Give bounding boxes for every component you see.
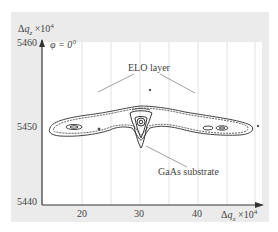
elo-layer-annotation: ELO layer	[128, 63, 170, 73]
x-axis-label: Δqx ×104	[221, 207, 257, 224]
y-tick-5440: 5440	[17, 197, 37, 207]
y-tick-5460: 5460	[17, 38, 37, 48]
y-axis	[39, 39, 45, 205]
x-tick-20: 20	[77, 209, 87, 219]
x-tick-40: 40	[192, 209, 202, 219]
x-tick-30: 30	[134, 209, 144, 219]
y-axis-label: Δqz ×104	[18, 21, 54, 38]
gaas-substrate-annotation: GaAs substrate	[158, 167, 219, 177]
y-tick-5450: 5450	[17, 122, 37, 132]
gaas-substrate-contours	[130, 109, 152, 149]
phi-annotation: φ = 0°	[50, 40, 76, 50]
